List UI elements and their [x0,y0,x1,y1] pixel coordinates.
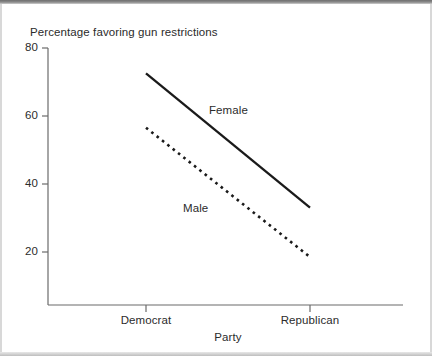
y-tick-label-20: 20 [12,245,38,257]
y-tick-label-40: 40 [12,177,38,189]
x-tick-label-republican: Republican [255,314,365,326]
series-line-male [146,128,310,257]
chart-page: Percentage favoring gun restrictions 80 … [0,0,432,356]
line-chart-figure: Percentage favoring gun restrictions 80 … [0,0,432,356]
series-label-male: Male [183,202,208,214]
x-axis-title: Party [173,331,283,343]
x-tick-label-democrat: Democrat [91,314,201,326]
series-line-female [146,73,310,207]
chart-plot-area [0,0,432,356]
y-tick-label-60: 60 [12,109,38,121]
series-label-female: Female [209,104,248,116]
y-tick-label-80: 80 [12,41,38,53]
